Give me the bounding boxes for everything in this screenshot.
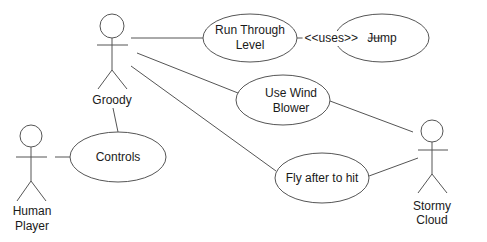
uses-stereotype-label: <<uses>> <box>303 31 360 46</box>
assoc-groody-wind <box>137 53 238 93</box>
use-case-run-through-level-label-line1: Run Through <box>215 23 285 38</box>
assoc-groody-controls <box>113 108 118 132</box>
use-case-use-wind-blower-label-line1: Use Wind <box>265 86 317 101</box>
actor-human-player-figure <box>16 125 47 201</box>
actor-stormy-cloud-figure <box>418 120 448 193</box>
assoc-stormy-wind <box>330 101 413 132</box>
actor-human-player-label-line2: Player <box>15 219 49 234</box>
actor-stormy-cloud-label-line1: Stormy <box>413 199 451 214</box>
use-case-jump-label: Jump <box>367 31 396 46</box>
use-case-fly-after-to-hit-label: Fly after to hit <box>286 171 359 186</box>
use-case-diagram: Groody Human Player Stormy Cloud Run Thr… <box>0 0 487 242</box>
actor-stormy-cloud-label-line2: Cloud <box>416 213 447 228</box>
actor-groody-label: Groody <box>92 93 131 108</box>
actor-human-player-label-line1: Human <box>13 204 52 219</box>
use-case-run-through-level-label-line2: Level <box>236 38 265 53</box>
use-case-use-wind-blower-label-line2: Blower <box>273 101 310 116</box>
use-case-controls-label: Controls <box>96 150 141 165</box>
assoc-groody-fly <box>131 66 276 171</box>
actor-groody-figure <box>97 14 128 89</box>
assoc-stormy-fly <box>369 158 418 176</box>
